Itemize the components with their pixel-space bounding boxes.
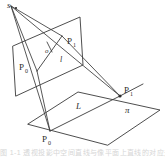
label-ground-p1-sub: 1 [130, 91, 133, 97]
ground-line-L [50, 96, 120, 131]
label-image-p1-letter: P [67, 36, 72, 46]
label-ground-p0: P 0 [42, 134, 51, 146]
label-ground-p0-letter: P [42, 134, 47, 144]
label-ground-p0-sub: 0 [48, 140, 51, 146]
label-image-line-l: l [60, 55, 63, 64]
geometry-figure: s o l L π P 1 P 0 P 1 P 0 图 1-1 透视投影中空间直… [0, 0, 165, 157]
apex-vertex-dot [15, 7, 17, 9]
image-line-l [37, 36, 62, 71]
label-image-p0: P 0 [19, 62, 28, 74]
label-ground-p1-letter: P [124, 85, 129, 95]
label-ground-line-L: L [75, 101, 81, 111]
ground-plane-outline [28, 92, 160, 145]
label-image-p0-sub: 0 [25, 68, 28, 74]
diagram-canvas: s o l L π P 1 P 0 P 1 P 0 [0, 0, 165, 157]
ground-p1-vertex-dot [118, 94, 121, 97]
label-origin-o: o [45, 47, 49, 55]
ray-image-p0-to-ground-p0 [37, 71, 50, 131]
label-apex-s: s [7, 0, 11, 10]
ray-s-to-ground-p0 [11, 6, 50, 131]
label-image-p0-letter: P [19, 62, 24, 72]
label-ground-p1: P 1 [124, 85, 133, 97]
label-image-p1-sub: 1 [73, 42, 76, 48]
figure-caption: 图 1-1 透视投影中空间直线与像平面上直线的对应关系 [0, 148, 165, 157]
label-ground-plane-pi: π [125, 105, 130, 115]
ray-s-to-ground-p1 [11, 6, 120, 96]
